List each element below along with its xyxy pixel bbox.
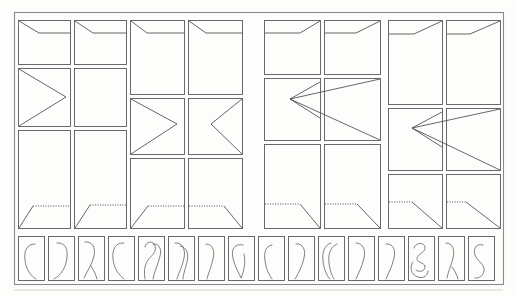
figure-canvas	[0, 0, 517, 296]
figure-panel-grid	[0, 0, 517, 296]
